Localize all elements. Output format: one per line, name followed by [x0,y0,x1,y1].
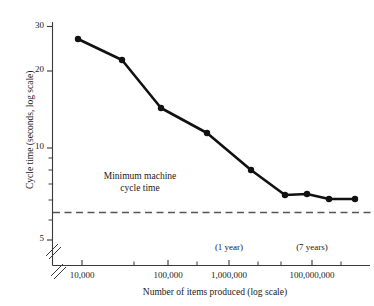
annotation-one-year: (1 year) [199,243,259,252]
x-axis-minor-ticks [134,262,341,266]
data-point [352,196,358,202]
data-point [304,191,310,197]
data-point [119,57,125,63]
y-tick-label-30: 30 [22,21,44,30]
x-tick-label-10000: 10,000 [52,271,112,280]
data-point [158,105,164,111]
minimum-cycle-time-annotation: Minimum machine cycle time [73,171,207,194]
y-axis-break-icon [46,244,61,259]
data-point [75,36,81,42]
chart-figure: 30 20 10 5 10,000 100,000 1,000,000 100,… [0,0,374,306]
annotation-seven-years: (7 years) [280,243,344,252]
minimum-cycle-time-annotation-line2: cycle time [73,183,207,195]
y-axis-minor-ticks [49,158,53,220]
x-axis-title: Number of items produced (log scale) [60,288,370,298]
x-tick-label-100000000: 100,000,000 [269,271,355,280]
data-point [326,196,332,202]
data-point [282,192,288,198]
minimum-cycle-time-annotation-line1: Minimum machine [73,171,207,183]
chart-plot-area [0,0,374,306]
y-axis-title: Cycle time (seconds, log scale) [26,45,36,215]
x-tick-label-1000000: 1,000,000 [192,271,266,280]
y-tick-label-5: 5 [22,234,44,243]
y-axis-major-ticks [47,27,53,241]
data-point [204,130,210,136]
data-point [248,167,254,173]
